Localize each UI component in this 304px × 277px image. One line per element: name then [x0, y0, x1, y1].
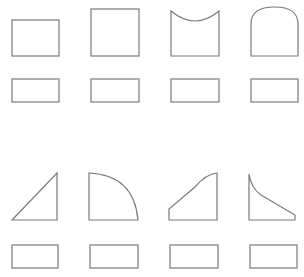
shape-square: [91, 9, 139, 56]
shape-right-triangle: [12, 173, 57, 220]
label-box[interactable]: [250, 245, 297, 268]
label-box[interactable]: [12, 245, 58, 268]
label-box[interactable]: [12, 79, 59, 102]
shape-square-with-concave-top: [171, 11, 219, 56]
label-box[interactable]: [170, 245, 218, 268]
label-box[interactable]: [171, 79, 219, 102]
row-2: [12, 173, 295, 220]
shape-trapezoid-with-curved-top: [169, 173, 217, 220]
label-box[interactable]: [90, 245, 138, 268]
shape-square-with-arched-top: [251, 7, 298, 56]
row-1-labels: [12, 79, 298, 102]
label-box[interactable]: [251, 79, 298, 102]
shape-trapezoid-with-concave-slope: [249, 174, 295, 220]
shape-quarter-circle: [89, 173, 138, 220]
shape-rectangle: [12, 20, 59, 56]
label-box[interactable]: [91, 79, 139, 102]
row-2-labels: [12, 245, 297, 268]
row-1: [12, 7, 298, 56]
shapes-diagram: [0, 0, 304, 277]
